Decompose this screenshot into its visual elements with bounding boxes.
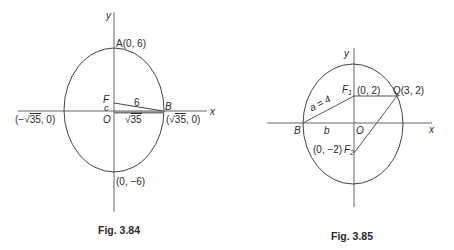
origin-o-label: O <box>103 114 111 125</box>
point-b-label: B <box>165 101 172 112</box>
focus-f2-label: F2 <box>344 144 354 158</box>
ellipse <box>303 64 403 184</box>
focus-f1-label: F1 <box>342 84 352 98</box>
base-sqrt35-label: √35 <box>125 114 142 125</box>
point-a-label: A(0, 6) <box>116 38 146 49</box>
figure-3-85: y x F1 (0, 2) Q(3, 2) (0, −2) F2 a = 4 B… <box>227 0 454 250</box>
figure-3-84: y x A(0, 6) (0, −6) F c O B 6 √35 (−√35,… <box>0 0 227 250</box>
focus-f1-coord: (0, 2) <box>357 85 380 96</box>
point-b-label: B <box>294 125 301 136</box>
x-axis-label: x <box>210 106 215 117</box>
y-axis-label: y <box>106 10 111 21</box>
point-q-label: Q(3, 2) <box>393 85 424 96</box>
distance-c-label: c <box>104 103 109 114</box>
origin-o-label: O <box>356 125 364 136</box>
ellipse-diagram-2 <box>227 0 454 250</box>
point-bottom-label: (0, −6) <box>116 176 145 187</box>
focus-f2-coord: (0, −2) <box>313 144 342 155</box>
figure-caption: Fig. 3.85 <box>331 230 373 242</box>
y-axis-label: y <box>344 48 349 59</box>
left-vertex-label: (−√35, 0) <box>15 114 55 125</box>
ellipse-diagram-1 <box>0 0 227 250</box>
right-vertex-label: (√35, 0) <box>166 114 200 125</box>
segment-b-label: b <box>324 125 330 136</box>
hypotenuse-6-label: 6 <box>134 97 140 108</box>
x-axis-label: x <box>429 124 434 135</box>
figure-caption: Fig. 3.84 <box>98 224 140 236</box>
